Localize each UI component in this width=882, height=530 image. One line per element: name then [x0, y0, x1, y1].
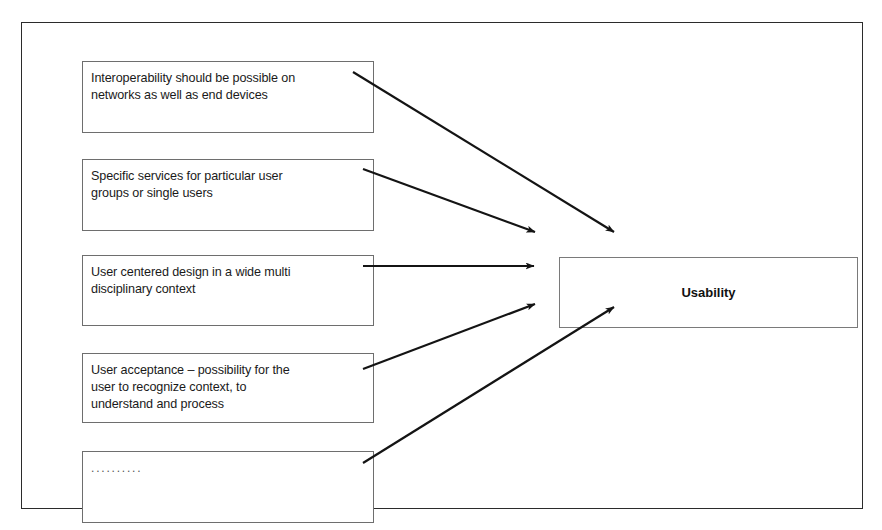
factor-box-user-acceptance-label: User acceptance – possibility for the us…	[91, 362, 365, 413]
usability-box-label: Usability	[681, 285, 735, 300]
factor-box-interoperability-label: Interoperability should be possible on n…	[91, 70, 365, 104]
factor-box-user-acceptance: User acceptance – possibility for the us…	[82, 353, 374, 423]
factor-box-more: ..........	[82, 451, 374, 523]
factor-box-user-centered-design-label: User centered design in a wide multi dis…	[91, 264, 365, 298]
factor-box-interoperability: Interoperability should be possible on n…	[82, 61, 374, 133]
factor-box-user-centered-design: User centered design in a wide multi dis…	[82, 255, 374, 326]
diagram-root: Interoperability should be possible on n…	[0, 0, 882, 530]
factor-box-specific-services-label: Specific services for particular user gr…	[91, 168, 365, 202]
factor-box-more-label: ..........	[91, 460, 365, 477]
factor-box-specific-services: Specific services for particular user gr…	[82, 159, 374, 231]
diagram-outer-frame: Interoperability should be possible on n…	[21, 22, 863, 509]
usability-box: Usability	[559, 257, 858, 328]
